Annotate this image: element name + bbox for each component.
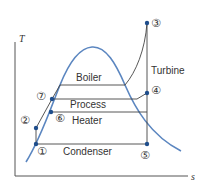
- state-point-4: [145, 91, 149, 95]
- boiler-label: Boiler: [76, 72, 102, 83]
- heater-label: Heater: [72, 115, 103, 126]
- label-point-4: ④: [151, 84, 161, 97]
- state-point-3: [145, 21, 149, 25]
- state-point-5: [145, 142, 149, 146]
- s-axis-label: s: [191, 171, 195, 182]
- t-axis-label: T: [19, 33, 26, 44]
- label-point-5: ⑤: [140, 149, 150, 162]
- state-point-7: [50, 97, 54, 101]
- ts-diagram: T s ① ② ③ ④ ⑤ ⑥ ⑦ Boiler Turbine Process…: [0, 0, 201, 182]
- label-point-7: ⑦: [36, 90, 46, 103]
- label-point-2: ②: [20, 114, 30, 127]
- process-label: Process: [70, 99, 106, 110]
- turbine-label: Turbine: [151, 65, 185, 76]
- superheat-curve: [125, 23, 147, 85]
- condenser-label: Condenser: [63, 146, 113, 157]
- label-point-3: ③: [151, 17, 161, 30]
- state-point-6: [49, 110, 53, 114]
- label-point-1: ①: [37, 145, 47, 158]
- state-point-2: [34, 126, 38, 130]
- label-point-6: ⑥: [55, 112, 65, 125]
